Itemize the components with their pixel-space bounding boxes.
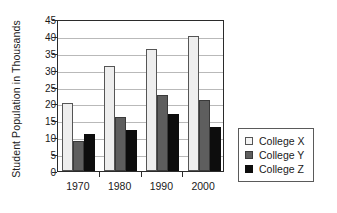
swatch-white-icon — [245, 137, 253, 145]
legend-item-label: College X — [259, 135, 305, 147]
x-axis-tick-label: 1980 — [98, 180, 142, 192]
bar — [126, 130, 137, 171]
x-axis-tick-label: 2000 — [181, 180, 225, 192]
x-axis-tick-mark — [141, 172, 142, 177]
bar — [199, 100, 210, 171]
bar — [62, 103, 73, 171]
swatch-gray-icon — [245, 151, 253, 159]
bar-chart-figure: Student Population in Thousands 05101520… — [0, 0, 337, 213]
legend-item-label: College Y — [259, 149, 304, 161]
legend-item-label: College Z — [259, 163, 304, 175]
bar-group — [183, 21, 225, 171]
x-axis-tick-label: 1970 — [56, 180, 100, 192]
legend-item: College Z — [245, 162, 305, 176]
bar — [84, 134, 95, 171]
y-axis-title: Student Population in Thousands — [10, 9, 22, 189]
x-axis-tick-mark — [182, 172, 183, 177]
bar — [168, 114, 179, 171]
plot-area — [57, 20, 224, 172]
y-axis-tick-mark — [52, 172, 57, 173]
legend: College XCollege YCollege Z — [238, 128, 314, 182]
bar — [146, 49, 157, 171]
bar-group — [100, 21, 142, 171]
bar — [73, 141, 84, 171]
x-axis-tick-mark — [99, 172, 100, 177]
swatch-black-icon — [245, 165, 253, 173]
bar — [210, 127, 221, 171]
bar — [157, 95, 168, 171]
bar-group — [142, 21, 184, 171]
legend-item: College Y — [245, 148, 305, 162]
bar — [104, 66, 115, 171]
bar — [115, 117, 126, 171]
bar — [188, 36, 199, 171]
x-axis-tick-label: 1990 — [139, 180, 183, 192]
bar-group — [58, 21, 100, 171]
legend-item: College X — [245, 134, 305, 148]
